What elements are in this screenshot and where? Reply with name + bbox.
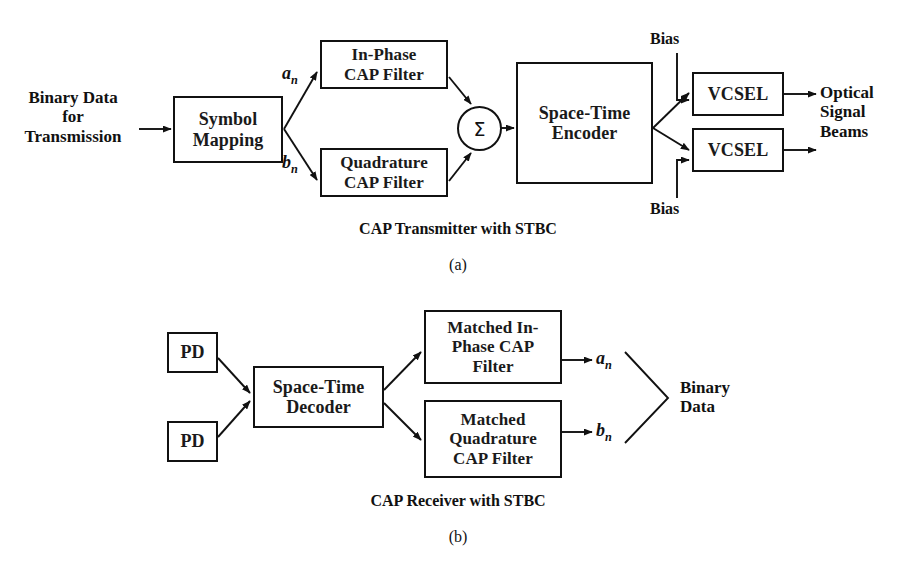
rx-bn-sub: n [605, 430, 612, 444]
arrow-pd-top-to-decoder [218, 358, 250, 393]
pd-bottom-label: PD [178, 431, 206, 451]
optical-output-label: Optical Signal Beams [820, 83, 910, 141]
summation-symbol: Σ [473, 118, 485, 140]
vcsel-top-label: VCSEL [706, 84, 771, 104]
quadrature-cap-filter-block: Quadrature CAP Filter [320, 148, 448, 197]
space-time-encoder-block: Space-Time Encoder [516, 62, 653, 184]
rx-an-label: an [596, 348, 612, 373]
space-time-encoder-label: Space-Time Encoder [537, 103, 633, 143]
pd-top-label: PD [178, 342, 206, 362]
bias-bottom-label: Bias [650, 200, 720, 218]
quadrature-cap-filter-label: Quadrature CAP Filter [338, 153, 430, 191]
arrow-encoder-to-vcsel-bottom [653, 128, 689, 150]
binary-data-output-label: Binary Data [680, 378, 780, 417]
arrow-encoder-to-vcsel-top [653, 93, 689, 128]
binary-data-combiner [625, 352, 668, 443]
summation-node: Σ [457, 106, 502, 151]
arrow-quadrature-to-summer [449, 153, 471, 181]
rx-bn-base: b [596, 420, 605, 440]
matched-inphase-filter-label: Matched In- Phase CAP Filter [445, 318, 540, 375]
bias-top-connector [677, 53, 689, 100]
binary-data-input-label: Binary Data for Transmission [8, 88, 138, 146]
receiver-subcaption: (b) [0, 528, 916, 546]
vcsel-bottom-block: VCSEL [692, 128, 784, 172]
arrow-decoder-to-matched-quadrature [384, 403, 421, 440]
rx-an-sub: n [605, 358, 612, 372]
rx-bn-label: bn [596, 420, 612, 445]
arrow-pd-bottom-to-decoder [218, 401, 250, 437]
space-time-decoder-label: Space-Time Decoder [271, 377, 367, 417]
tx-an-base: a [282, 63, 291, 83]
pd-top-block: PD [167, 332, 218, 373]
matched-inphase-filter-block: Matched In- Phase CAP Filter [424, 310, 562, 384]
arrow-inphase-to-summer [449, 77, 471, 104]
tx-bn-sub: n [291, 162, 298, 176]
vcsel-bottom-label: VCSEL [706, 140, 771, 160]
rx-an-base: a [596, 348, 605, 368]
space-time-decoder-block: Space-Time Decoder [253, 366, 384, 428]
tx-bn-label: bn [282, 152, 298, 177]
arrow-decoder-to-matched-inphase [384, 352, 421, 390]
bias-bottom-connector [677, 160, 689, 198]
receiver-caption: CAP Receiver with STBC [0, 492, 916, 510]
tx-bn-base: b [282, 152, 291, 172]
inphase-cap-filter-label: In-Phase CAP Filter [342, 45, 426, 83]
symbol-mapping-block: Symbol Mapping [173, 96, 283, 163]
vcsel-top-block: VCSEL [692, 72, 784, 116]
pd-bottom-block: PD [167, 421, 218, 462]
matched-quadrature-filter-label: Matched Quadrature CAP Filter [447, 410, 539, 467]
bias-top-label: Bias [650, 30, 720, 48]
matched-quadrature-filter-block: Matched Quadrature CAP Filter [424, 400, 562, 478]
symbol-mapping-label: Symbol Mapping [191, 109, 266, 149]
transmitter-subcaption: (a) [0, 256, 916, 274]
figure-root: Binary Data for Transmission Symbol Mapp… [0, 0, 916, 562]
tx-an-label: an [282, 63, 298, 88]
transmitter-caption: CAP Transmitter with STBC [0, 220, 916, 238]
inphase-cap-filter-block: In-Phase CAP Filter [320, 40, 448, 89]
tx-an-sub: n [291, 73, 298, 87]
